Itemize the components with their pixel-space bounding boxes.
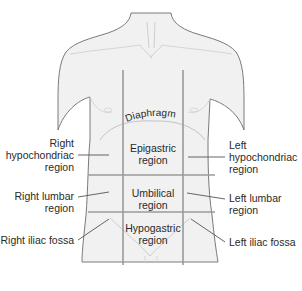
left-lumbar-line1: Left lumbar	[229, 192, 302, 204]
hypogastric-line1: Hypogastric	[124, 222, 182, 234]
right-hypochondriac-line2: hypochondriac	[0, 149, 74, 161]
left-iliac-fossa-label: Left iliac fossa	[229, 236, 302, 248]
right-hypochondriac-line3: region	[0, 161, 74, 173]
left-hypochondriac-label: Left hypochondriac region	[229, 139, 302, 175]
right-lumbar-line1: Right lumbar	[0, 190, 74, 202]
epigastric-region-label: Epigastric region	[124, 142, 182, 166]
left-lumbar-label: Left lumbar region	[229, 192, 302, 216]
hypogastric-region-label: Hypogastric region	[124, 222, 182, 246]
right-hypochondriac-line1: Right	[0, 137, 74, 149]
umbilical-line2: region	[124, 199, 182, 211]
right-iliac-fossa-label: Right iliac fossa	[0, 234, 74, 246]
right-lumbar-label: Right lumbar region	[0, 190, 74, 214]
hypogastric-line2: region	[124, 234, 182, 246]
epigastric-line2: region	[124, 154, 182, 166]
left-iliac-line1: Left iliac fossa	[229, 236, 302, 248]
epigastric-line1: Epigastric	[124, 142, 182, 154]
right-hypochondriac-label: Right hypochondriac region	[0, 137, 74, 173]
umbilical-line1: Umbilical	[124, 187, 182, 199]
umbilical-region-label: Umbilical region	[124, 187, 182, 211]
left-hypochondriac-line1: Left	[229, 139, 302, 151]
left-lumbar-line2: region	[229, 204, 302, 216]
left-hypochondriac-line2: hypochondriac	[229, 151, 302, 163]
right-iliac-line1: Right iliac fossa	[0, 234, 74, 246]
right-lumbar-line2: region	[0, 202, 74, 214]
left-hypochondriac-line3: region	[229, 163, 302, 175]
